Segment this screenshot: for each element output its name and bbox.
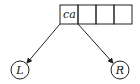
array-cell-3 [114,5,132,24]
array-cell-0-label: ca [63,8,76,21]
right-node-label: R [115,64,124,77]
array-cell-2 [96,5,114,24]
array-cell-1 [78,5,96,24]
node-array: ca [60,5,132,24]
child-node-left: L [11,61,29,79]
left-node-label: L [15,64,23,77]
left-arrow [27,24,60,63]
child-node-right: R [111,61,129,79]
right-arrow [78,24,113,63]
diagram-canvas: ca L R [0,0,140,84]
